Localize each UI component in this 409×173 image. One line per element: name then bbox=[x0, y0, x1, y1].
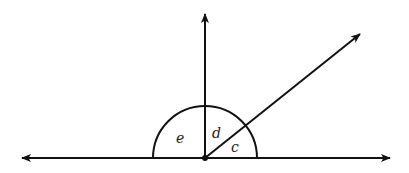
angle-label-d: d bbox=[212, 125, 221, 141]
angle-label-e: e bbox=[176, 130, 184, 146]
diagonal-ray bbox=[205, 34, 360, 158]
angle-diagram: e d c bbox=[0, 0, 409, 173]
angle-label-c: c bbox=[231, 139, 239, 155]
vertex-point bbox=[202, 155, 208, 161]
